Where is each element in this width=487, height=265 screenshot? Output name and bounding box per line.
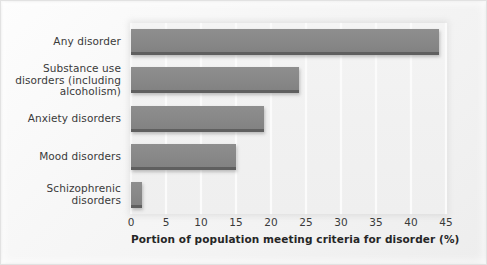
x-axis-tick-label: 30 — [334, 216, 347, 228]
bar — [131, 67, 299, 93]
y-axis-labels: Any disorderSubstance usedisorders (incl… — [1, 23, 125, 214]
y-axis-label: Substance usedisorders (includingalcohol… — [1, 63, 121, 98]
x-axis-tick-label: 35 — [369, 216, 382, 228]
x-axis-tick-label: 0 — [128, 216, 135, 228]
chart-figure: Any disorderSubstance usedisorders (incl… — [0, 0, 487, 265]
y-axis-label-line: Any disorder — [1, 36, 121, 48]
x-axis-tick-label: 5 — [163, 216, 170, 228]
bar — [131, 106, 264, 132]
bar — [131, 29, 439, 55]
x-axis-ticks: 051015202530354045 — [131, 216, 446, 230]
y-axis-label: Schizophrenicdisorders — [1, 183, 121, 206]
x-axis-tick-label: 20 — [264, 216, 277, 228]
y-axis-label: Mood disorders — [1, 151, 121, 163]
y-axis-label-line: Anxiety disorders — [1, 113, 121, 125]
y-axis-label: Anxiety disorders — [1, 113, 121, 125]
x-axis-tick-label: 45 — [439, 216, 452, 228]
x-axis-tick-label: 40 — [404, 216, 417, 228]
y-axis-label-line: Mood disorders — [1, 151, 121, 163]
y-axis-label-line: Substance use — [1, 63, 121, 75]
x-axis-tick-label: 15 — [229, 216, 242, 228]
x-axis-title: Portion of population meeting criteria f… — [131, 233, 446, 245]
x-axis-tick-label: 10 — [194, 216, 207, 228]
y-axis-label: Any disorder — [1, 36, 121, 48]
y-axis-label-line: disorders — [1, 195, 121, 207]
plot-area — [131, 23, 446, 214]
bar — [131, 144, 236, 170]
y-axis-label-line: alcoholism) — [1, 86, 121, 98]
gridline — [445, 23, 447, 214]
bar — [131, 182, 142, 208]
x-axis-tick-label: 25 — [299, 216, 312, 228]
